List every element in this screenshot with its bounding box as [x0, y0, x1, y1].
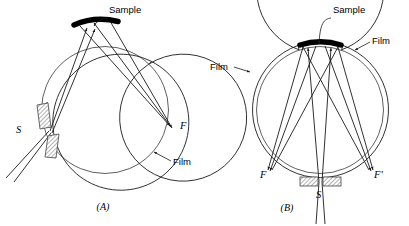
film-outer-arc-b [252, 46, 388, 178]
panel-b: Sample Film Film F F' S (B) [210, 0, 390, 224]
slit-jaw-upper-a [37, 103, 51, 129]
diffracted-ray-a-3 [94, 23, 171, 127]
diffracted-ray-b-1 [268, 47, 303, 170]
slit-jaw-left-b [300, 177, 318, 186]
diffracted-ray-a-1 [80, 26, 170, 126]
focus-left-label-b: F [259, 169, 267, 180]
film-label-b-right: Film [372, 35, 390, 46]
film-label-b-left: Film [210, 61, 228, 72]
incident-ray-a-2 [14, 133, 51, 182]
slit-jaw-right-b [323, 177, 341, 186]
film-leader-b-right [355, 42, 370, 50]
film-leader-b-left [234, 67, 250, 72]
incident-ray-b-2 [322, 182, 325, 224]
panel-a: Sample S F Film (A) [6, 4, 247, 213]
panel-caption-b: (B) [281, 202, 294, 214]
slit-jaws-a [37, 103, 59, 158]
focus-right-label-b: F' [373, 169, 383, 180]
panel-caption-a: (A) [97, 201, 110, 213]
sample-arc-b [300, 42, 341, 45]
incident-ray-a-1 [6, 131, 49, 178]
diffracted-rays-a [80, 21, 172, 128]
diagram-svg: Sample S F Film (A) [0, 0, 409, 226]
diffracted-rays-b [268, 46, 373, 171]
source-label-b: S [316, 189, 322, 200]
film-ring-a [53, 54, 247, 190]
incident-ray-b-3 [308, 48, 319, 182]
incident-ray-a-3 [50, 28, 87, 131]
source-label-a: S [16, 124, 22, 135]
figure-root: Sample S F Film (A) [0, 0, 409, 226]
diffracted-ray-b-6 [272, 47, 338, 170]
diffracted-ray-b-2 [270, 46, 316, 171]
diffracted-ray-b-3 [338, 47, 373, 170]
sample-label-a: Sample [109, 4, 141, 15]
sample-label-b: Sample [333, 4, 365, 15]
focus-label-a: F [179, 120, 187, 131]
slit-jaws-b [300, 177, 341, 186]
incident-ray-a-4 [52, 29, 95, 133]
film-leader-a [154, 152, 171, 161]
film-label-a: Film [173, 156, 191, 167]
diffracted-ray-a-2 [110, 21, 172, 128]
